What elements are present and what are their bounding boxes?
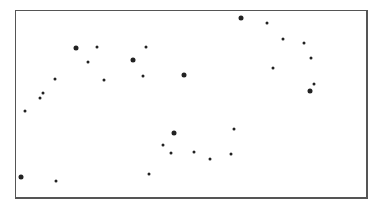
data-point: [162, 144, 165, 147]
data-point: [170, 152, 173, 155]
data-point: [209, 158, 212, 161]
data-point: [42, 92, 45, 95]
data-point: [39, 97, 42, 100]
data-point: [142, 75, 145, 78]
data-point: [182, 73, 187, 78]
data-point: [310, 57, 313, 60]
data-point: [282, 38, 285, 41]
data-point: [145, 46, 148, 49]
data-point: [266, 22, 269, 25]
data-point: [193, 151, 196, 154]
data-point: [54, 78, 57, 81]
data-point: [272, 67, 275, 70]
data-point: [313, 83, 316, 86]
data-point: [233, 128, 236, 131]
data-point: [230, 153, 233, 156]
data-point: [308, 89, 313, 94]
data-point: [103, 79, 106, 82]
data-point: [19, 175, 24, 180]
scatter-plot-area: [15, 10, 368, 199]
data-point: [131, 58, 136, 63]
data-point: [24, 110, 27, 113]
data-point: [239, 16, 244, 21]
data-point: [96, 46, 99, 49]
data-point: [55, 180, 58, 183]
data-point: [303, 42, 306, 45]
data-point: [87, 61, 90, 64]
data-point: [74, 46, 79, 51]
data-point: [172, 131, 177, 136]
data-point: [148, 173, 151, 176]
